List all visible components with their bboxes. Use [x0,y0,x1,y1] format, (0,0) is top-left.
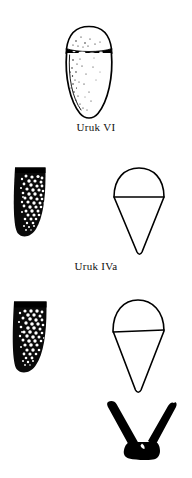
period-label-uruk-iva: Uruk IVa [0,260,192,273]
chevron-left-arm [107,401,139,449]
figure-sheet: Uruk VI [0,0,192,478]
vessel-dome-outline [67,27,112,50]
period-label-uruk-vi: Uruk VI [0,121,192,134]
sherd-rim-edge [15,168,46,174]
cone-outline [113,300,164,392]
vessel-body-outline [66,53,112,118]
lower-cone [106,296,172,396]
chevron-right-arm [148,402,177,446]
cone-outline [114,168,164,254]
lower-chevron-object [98,396,184,466]
sherd-rim-edge [14,302,47,308]
uruk-iva-sherd [12,164,60,248]
uruk-vi-complete-vessel [60,22,118,124]
lower-sherd [10,297,60,383]
uruk-iva-cone [108,164,172,258]
